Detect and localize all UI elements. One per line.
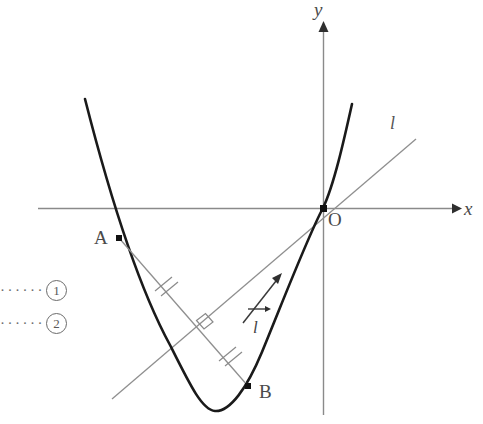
right-angle-icon: [197, 314, 214, 330]
line-l: [112, 139, 416, 399]
direction-vector-letter: l: [253, 318, 258, 338]
figure-canvas: x y A B O l l ······ 1 ······ 2: [0, 0, 483, 424]
x-axis-arrowhead: [452, 204, 462, 214]
x-axis: [38, 204, 462, 214]
note-row-2: ······ 2: [0, 313, 67, 334]
y-axis-label: y: [314, 0, 322, 19]
point-label-b: B: [259, 382, 272, 401]
parabola-curve: [85, 99, 352, 411]
point-label-o: O: [328, 210, 342, 229]
note-leader-dots-2: ······: [0, 315, 45, 332]
y-axis-arrowhead: [319, 21, 329, 32]
note-row-1: ······ 1: [0, 280, 67, 301]
point-o-marker: [320, 205, 327, 212]
point-label-a: A: [94, 228, 108, 247]
line-l-label: l: [390, 114, 395, 132]
segment-ab: [119, 238, 248, 386]
point-b-marker: [245, 383, 251, 389]
note-number-1: 1: [46, 280, 67, 301]
line-l-stroke: [112, 139, 416, 399]
point-a-marker: [116, 235, 122, 241]
note-number-2: 2: [46, 313, 67, 334]
x-axis-label: x: [464, 199, 472, 218]
geometry-figure: [0, 0, 483, 424]
note-leader-dots-1: ······: [0, 282, 45, 299]
